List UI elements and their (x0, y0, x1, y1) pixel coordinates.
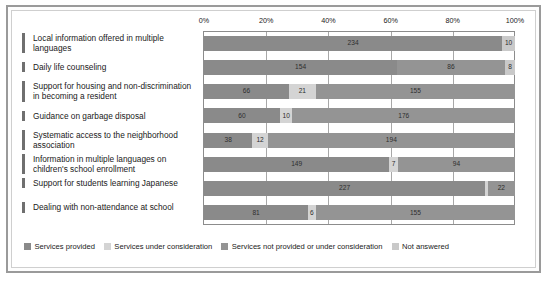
stacked-bar: 6010176 (204, 108, 515, 123)
stacked-bar: 3812194 (204, 133, 515, 148)
legend-label: Services not provided or under considera… (232, 242, 383, 251)
bar-value-label: 154 (295, 64, 306, 71)
legend-item-2[interactable]: Services not provided or under considera… (221, 242, 382, 251)
bar-value-label: 234 (348, 40, 359, 47)
bar-segment: 8 (505, 60, 515, 75)
x-axis-tick-0: 0% (199, 16, 209, 25)
bar-value-label: 8 (508, 64, 512, 71)
bar-segment: 155 (316, 205, 515, 220)
bar-value-label: 227 (339, 185, 350, 192)
bar-value-label: 176 (398, 113, 409, 120)
legend-item-1[interactable]: Services under consideration (104, 242, 212, 251)
plot-area: 0%20%40%60%80%100% Local information off… (16, 14, 531, 230)
category-label: Daily life counseling (22, 62, 198, 72)
bar-value-label: 66 (243, 88, 250, 95)
bar-segment: 7 (389, 157, 398, 172)
bar-segment: 38 (204, 133, 252, 148)
chart-row: Support for students learning Japanese22… (16, 177, 531, 201)
bar-segment: 22 (488, 181, 515, 196)
chart-row: Local information offered in multiple la… (16, 31, 531, 55)
bar-segment: 12 (252, 133, 267, 148)
chart-container: 0%20%40%60%80%100% Local information off… (16, 14, 531, 264)
x-axis-tick-labels: 0%20%40%60%80%100% (203, 16, 515, 30)
legend-swatch-icon (24, 243, 31, 250)
category-label: Information in multiple languages on chi… (22, 154, 198, 174)
legend-item-0[interactable]: Services provided (24, 242, 95, 251)
bar-segment: 6 (308, 205, 316, 220)
bar-segment: 94 (398, 157, 515, 172)
chart-row: Daily life counseling154868 (16, 55, 531, 79)
x-axis-tick-3: 60% (383, 16, 397, 25)
bar-value-label: 6 (310, 210, 314, 217)
stacked-bar: 149794 (204, 157, 515, 172)
x-axis-tick-1: 20% (259, 16, 273, 25)
category-label: Systematic access to the neighborhood as… (22, 130, 198, 150)
category-label: Local information offered in multiple la… (22, 33, 198, 53)
legend-label: Not answered (402, 242, 449, 251)
legend-swatch-icon (392, 243, 399, 250)
category-label: Dealing with non-attendance at school (22, 202, 198, 212)
bar-segment: 154 (204, 60, 397, 75)
legend-swatch-icon (104, 243, 111, 250)
bar-segment: 10 (502, 36, 515, 51)
stacked-bar: 816155 (204, 205, 515, 220)
chart-screenshot: 0%20%40%60%80%100% Local information off… (0, 0, 547, 284)
bar-value-label: 81 (252, 210, 259, 217)
bar-segment: 81 (204, 205, 308, 220)
bar-segment: 21 (289, 84, 316, 99)
chart-row: Support for housing and non-discriminati… (16, 80, 531, 104)
bar-segment: 227 (204, 181, 485, 196)
legend-label: Services provided (35, 242, 95, 251)
category-label: Support for students learning Japanese (22, 178, 198, 188)
chart-row: Information in multiple languages on chi… (16, 152, 531, 176)
bar-value-label: 12 (256, 137, 263, 144)
bar-segment: 234 (204, 36, 502, 51)
bar-segment: 86 (397, 60, 505, 75)
chart-legend: Services providedServices under consider… (24, 238, 529, 254)
bar-segment: 149 (204, 157, 389, 172)
stacked-bar: 154868 (204, 60, 515, 75)
bar-value-label: 22 (498, 185, 505, 192)
category-label: Guidance on garbage disposal (22, 111, 198, 121)
bar-segment: 176 (292, 108, 515, 123)
bar-value-label: 38 (225, 137, 232, 144)
chart-row: Systematic access to the neighborhood as… (16, 128, 531, 152)
x-axis-tick-4: 80% (446, 16, 460, 25)
stacked-bar: 22722 (204, 181, 515, 196)
bar-segment: 155 (316, 84, 515, 99)
bar-value-label: 7 (392, 161, 396, 168)
bar-value-label: 155 (410, 88, 421, 95)
category-label: Support for housing and non-discriminati… (22, 81, 198, 101)
bar-value-label: 86 (447, 64, 454, 71)
stacked-bar: 23410 (204, 36, 515, 51)
legend-swatch-icon (221, 243, 228, 250)
legend-item-3[interactable]: Not answered (392, 242, 449, 251)
bar-value-label: 10 (505, 40, 512, 47)
bar-segment: 10 (280, 108, 293, 123)
bar-value-label: 194 (386, 137, 397, 144)
bar-value-label: 60 (238, 113, 245, 120)
x-axis-tick-5: 100% (506, 16, 524, 25)
bar-value-label: 149 (291, 161, 302, 168)
bar-value-label: 155 (410, 210, 421, 217)
bar-segment: 194 (268, 133, 515, 148)
legend-label: Services under consideration (114, 242, 212, 251)
chart-row: Dealing with non-attendance at school816… (16, 201, 531, 225)
bar-rows: Local information offered in multiple la… (16, 31, 531, 225)
bar-value-label: 21 (299, 88, 306, 95)
bar-segment: 66 (204, 84, 289, 99)
chart-row: Guidance on garbage disposal6010176 (16, 104, 531, 128)
bar-segment: 60 (204, 108, 280, 123)
bar-value-label: 10 (282, 113, 289, 120)
bar-value-label: 94 (453, 161, 460, 168)
stacked-bar: 6621155 (204, 84, 515, 99)
x-axis-tick-2: 40% (321, 16, 335, 25)
